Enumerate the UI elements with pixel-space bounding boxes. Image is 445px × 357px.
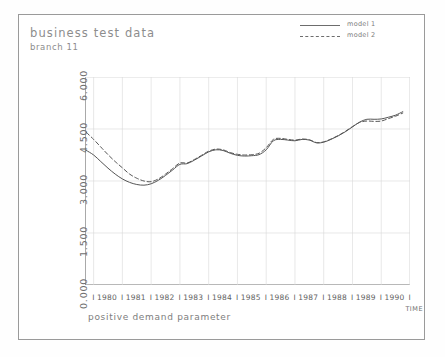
x-axis-tick-1985: 1985 (241, 293, 261, 302)
x-axis-separator: I (380, 293, 382, 302)
legend-label-model-1: model 1 (347, 20, 376, 28)
x-axis-tick-1988: 1988 (327, 293, 347, 302)
x-axis-title: TIME (405, 305, 423, 313)
x-axis-tick-1984: 1984 (212, 293, 232, 302)
x-axis-tick-1981: 1981 (126, 293, 146, 302)
legend-line-dashed-icon (300, 36, 340, 37)
x-axis-tick-1980: 1980 (97, 293, 117, 302)
chart-canvas (85, 77, 410, 285)
x-axis-separator: I (409, 293, 411, 302)
x-axis-separator: I (150, 293, 152, 302)
x-axis-separator: I (236, 293, 238, 302)
x-axis-separator: I (322, 293, 324, 302)
page-subtitle: branch 11 (30, 42, 78, 52)
x-axis-separator: I (178, 293, 180, 302)
series-line-2 (86, 113, 402, 182)
x-axis-separator: I (207, 293, 209, 302)
x-axis-separator: I (121, 293, 123, 302)
legend-line-solid-icon (300, 25, 340, 26)
x-axis-separator: I (265, 293, 267, 302)
x-axis-tick-1989: 1989 (356, 293, 376, 302)
legend-label-model-2: model 2 (347, 31, 376, 39)
plot-area (85, 77, 410, 285)
x-axis-tick-1986: 1986 (270, 293, 290, 302)
x-axis-separator: I (351, 293, 353, 302)
x-axis-separator: I (92, 293, 94, 302)
chart-caption: positive demand parameter (88, 312, 231, 322)
x-axis-tick-1982: 1982 (155, 293, 175, 302)
x-axis-tick-1983: 1983 (183, 293, 203, 302)
x-axis-separator: I (293, 293, 295, 302)
x-axis-tick-1990: 1990 (385, 293, 405, 302)
x-axis-tick-1987: 1987 (298, 293, 318, 302)
series-line-1 (86, 112, 402, 186)
page-title: business test data (30, 26, 155, 40)
chart-page: business test data branch 11 model 1 mod… (0, 0, 445, 357)
